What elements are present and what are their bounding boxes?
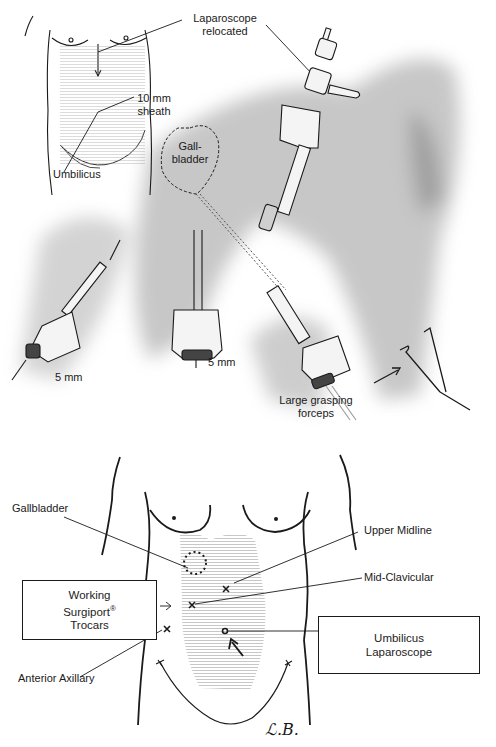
label-line: sheath — [134, 105, 174, 118]
inset-torso-shading — [60, 45, 145, 165]
working-surgiport-trocars-box: Working Surgiport® Trocars — [22, 580, 157, 640]
label-umbilicus-top: Umbilicus — [53, 168, 101, 181]
label-line: bladder — [168, 153, 212, 166]
box-line: Surgiport® — [63, 602, 116, 619]
nipples — [172, 516, 278, 521]
label-laparoscope-relocated: Laparoscope relocated — [185, 12, 265, 38]
label-10mm-sheath: 10 mm sheath — [134, 92, 174, 118]
label-line: relocated — [185, 25, 265, 38]
box-line: Umbilicus — [374, 631, 424, 645]
label-line: forceps — [268, 407, 364, 420]
registered-mark: ® — [110, 604, 116, 613]
label-line: Large grasping — [268, 394, 364, 407]
label-gallbladder-bottom: Gallbladder — [12, 502, 68, 515]
umbilicus-laparoscope-box: Umbilicus Laparoscope — [318, 616, 480, 674]
label-anterior-axillary: Anterior Axillary — [18, 672, 94, 685]
box-line: Laparoscope — [366, 645, 433, 659]
box-line: Trocars — [70, 618, 109, 632]
label-line: Laparoscope — [185, 12, 265, 25]
label-line: Gall- — [168, 140, 212, 153]
label-5mm-left: 5 mm — [55, 371, 83, 384]
label-mid-clavicular: Mid-Clavicular — [364, 571, 434, 584]
label-large-grasping-forceps: Large grasping forceps — [268, 394, 364, 420]
label-gallbladder-top: Gall- bladder — [168, 140, 212, 166]
artist-signature: ℒ.B. — [265, 720, 299, 739]
label-5mm-center: 5 mm — [208, 356, 236, 369]
box-text: Surgiport — [63, 605, 110, 617]
label-line: 10 mm — [134, 92, 174, 105]
box-line: Working — [69, 588, 111, 602]
label-upper-midline: Upper Midline — [364, 524, 432, 537]
abdominal-shading — [180, 533, 265, 690]
